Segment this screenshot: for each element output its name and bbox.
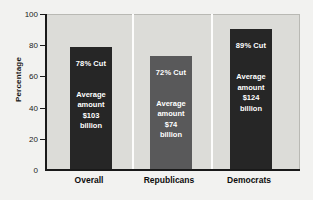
bar-republicans-amount-label: Averageamount$74billion <box>156 99 185 141</box>
bar-democrats-amount-label: Averageamount$124billion <box>236 72 265 114</box>
group-separator-1 <box>132 14 134 169</box>
bar-overall-amount-label: Averageamount$103billion <box>76 90 105 132</box>
y-tick-label-0: 0 <box>34 166 38 175</box>
y-tick-label-80: 80 <box>29 41 38 50</box>
bar-overall-pct-label: 78% Cut <box>76 59 106 68</box>
bar-democrats[interactable]: 89% Cut Averageamount$124billion <box>230 29 272 169</box>
y-tick-label-100: 100 <box>25 10 38 19</box>
x-axis-labels: Overall Republicans Democrats <box>45 175 300 193</box>
bar-democrats-pct-label: 89% Cut <box>236 41 266 50</box>
bar-chart: Percentage 100 80 60 40 20 0 <box>0 0 313 200</box>
y-tick-label-60: 60 <box>29 72 38 81</box>
bar-overall[interactable]: 78% Cut Averageamount$103billion <box>70 47 112 170</box>
y-tick-label-40: 40 <box>29 104 38 113</box>
group-separator-2 <box>211 14 213 169</box>
bar-republicans-pct-label: 72% Cut <box>156 68 186 77</box>
x-label-overall: Overall <box>75 175 104 185</box>
plot-top-edge <box>47 14 300 15</box>
plot-area: 78% Cut Averageamount$103billion 72% Cut… <box>45 14 300 171</box>
y-axis-ticks: 100 80 60 40 20 0 <box>0 0 46 200</box>
y-tick-label-20: 20 <box>29 135 38 144</box>
plot-right-edge <box>299 14 300 169</box>
x-label-republicans: Republicans <box>144 175 195 185</box>
bar-republicans[interactable]: 72% Cut Averageamount$74billion <box>150 56 192 169</box>
x-label-democrats: Democrats <box>227 175 271 185</box>
